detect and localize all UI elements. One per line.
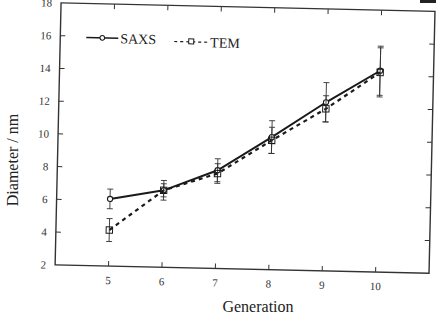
x-axis-title: Generation: [222, 298, 293, 315]
y-tick-label: 16: [40, 29, 52, 41]
series-layer: [106, 40, 384, 248]
x-tick-label: 7: [212, 276, 218, 288]
y-axis-title: Diameter / nm: [4, 113, 21, 206]
legend-saxs-circle-marker-icon: [100, 35, 105, 40]
y-tick-label: 18: [41, 0, 53, 9]
series-saxs: [107, 40, 384, 215]
legend-tem-label: TEM: [210, 35, 240, 51]
y-tick-label: 14: [39, 62, 51, 74]
y-tick-label: 12: [39, 95, 50, 107]
x-tick-label: 10: [370, 280, 382, 292]
x-tick-label: 6: [159, 275, 165, 287]
error-bar: [109, 219, 110, 242]
legend-tem-square-marker-icon: [189, 39, 194, 44]
corner-page-fragment: [420, 0, 436, 3]
series-tem: [106, 42, 384, 248]
x-axis-ticks: 5678910: [105, 4, 387, 292]
error-bar: [271, 127, 272, 153]
plot-area: 24681012141618 5678910 SAXS TEM: [35, 0, 435, 293]
x-tick-label: 8: [266, 278, 272, 290]
legend: SAXS TEM: [86, 30, 240, 50]
y-tick-label: 8: [43, 160, 49, 172]
saxs-line: [110, 65, 380, 205]
error-bar: [326, 96, 327, 122]
y-tick-label: 10: [38, 127, 50, 139]
x-tick-label: 9: [319, 279, 325, 291]
x-tick-label: 5: [105, 274, 111, 286]
diameter-vs-generation-chart: 24681012141618 5678910 SAXS TEM Diameter…: [0, 0, 436, 319]
tem-line: [109, 66, 380, 236]
legend-saxs-label: SAXS: [120, 31, 156, 47]
circle-marker-icon: [107, 196, 112, 201]
error-bar: [380, 48, 381, 97]
y-tick-label: 2: [40, 259, 46, 271]
y-tick-label: 4: [41, 226, 47, 238]
y-tick-label: 6: [42, 193, 48, 205]
